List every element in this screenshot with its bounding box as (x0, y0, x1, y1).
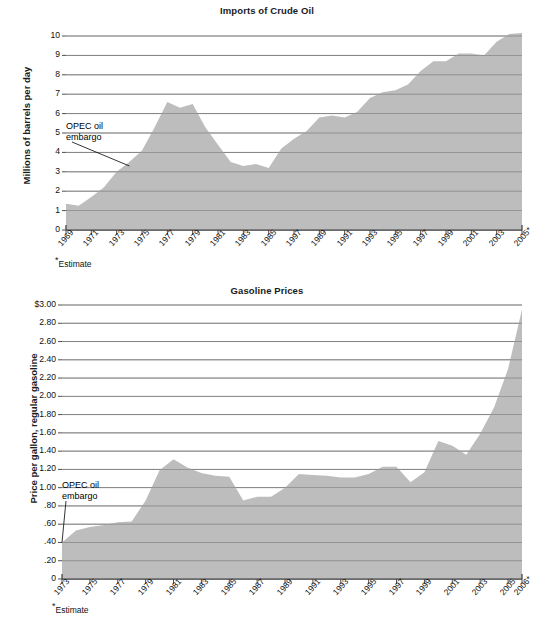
chart-imports-of-crude-oil: Imports of Crude Oil Millions of barrels… (0, 0, 534, 283)
y-axis-tick-label: 1.40 (16, 445, 56, 455)
y-axis-tick-label: 2.20 (16, 372, 56, 382)
annotation-opec-embargo-imports: OPEC oil embargo (66, 121, 103, 143)
y-axis-tick-label: .40 (16, 536, 56, 546)
y-axis-tick-label: 7 (20, 88, 60, 98)
footnote-estimate-imports: *Estimate (55, 259, 92, 269)
y-axis-tick-label: .60 (16, 518, 56, 528)
annotation-opec-embargo-gasoline: OPEC oil embargo (62, 480, 99, 502)
annotation-line-1: OPEC oil (66, 121, 103, 132)
y-axis-tick-label: 2.40 (16, 354, 56, 364)
y-axis-tick-label: 1.80 (16, 409, 56, 419)
footnote-text: Estimate (56, 605, 89, 615)
y-axis-tick-label: 6 (20, 108, 60, 118)
y-axis-tick-label: 2.60 (16, 336, 56, 346)
y-axis-tick-label: 2 (20, 185, 60, 195)
chart-gasoline-prices: Gasoline Prices Price per gallon, regula… (0, 283, 534, 629)
y-axis-tick-label: $3.00 (16, 299, 56, 309)
footnote-estimate-gasoline: *Estimate (52, 605, 89, 615)
y-axis-tick-label: 1.20 (16, 463, 56, 473)
y-axis-tick-label: 9 (20, 49, 60, 59)
annotation-line-2: embargo (66, 132, 103, 143)
y-axis-tick-label: 1 (20, 205, 60, 215)
y-axis-tick-label: 10 (20, 30, 60, 40)
y-axis-tick-label: 5 (20, 127, 60, 137)
y-axis-tick-label: 4 (20, 146, 60, 156)
y-axis-tick-label: .20 (16, 555, 56, 565)
y-axis-tick-label: 8 (20, 69, 60, 79)
y-axis-tick-label: 3 (20, 166, 60, 176)
y-axis-tick-label: .80 (16, 500, 56, 510)
y-axis-tick-label: 2.80 (16, 317, 56, 327)
y-axis-tick-label: 0 (16, 573, 56, 583)
footnote-text: Estimate (59, 259, 92, 269)
y-axis-tick-label: 1.60 (16, 427, 56, 437)
annotation-line-2: embargo (62, 491, 99, 502)
y-axis-tick-label: 0 (20, 224, 60, 234)
y-axis-tick-label: 2.00 (16, 390, 56, 400)
y-axis-tick-label: 1.00 (16, 482, 56, 492)
annotation-line-1: OPEC oil (62, 480, 99, 491)
